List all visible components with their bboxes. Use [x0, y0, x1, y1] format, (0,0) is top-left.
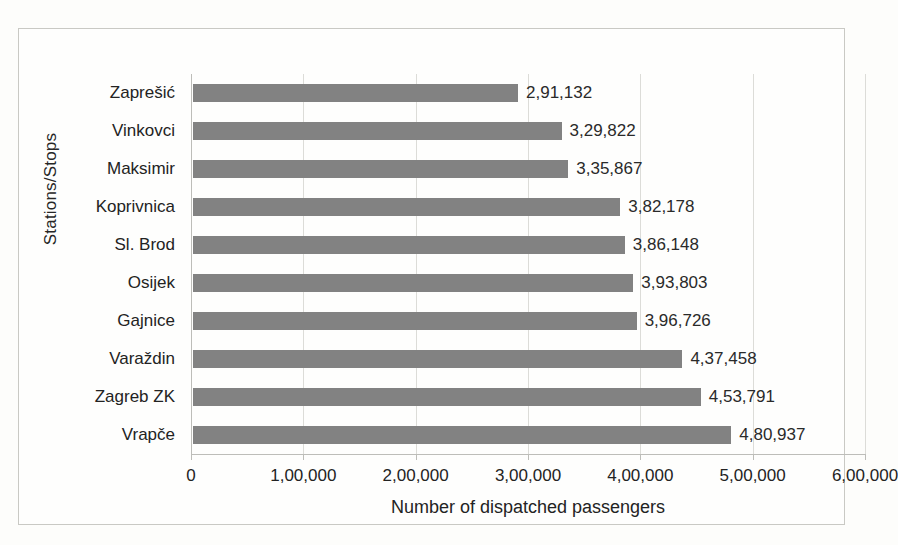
bar-value-label: 4,37,458 — [690, 349, 756, 369]
x-axis-tick — [640, 454, 641, 460]
bar[interactable] — [193, 236, 625, 254]
category-label: Sl. Brod — [57, 235, 175, 255]
x-axis-tick-label: 5,00,000 — [720, 465, 786, 487]
bar-row: 4,53,791 — [191, 378, 865, 416]
x-axis-tick — [416, 454, 417, 460]
x-axis-tick — [303, 454, 304, 460]
bar[interactable] — [193, 388, 701, 406]
x-axis-tick — [865, 454, 866, 460]
bar-value-label: 3,86,148 — [633, 235, 699, 255]
category-axis: ZaprešićVinkovciMaksimirKoprivnicaSl. Br… — [57, 74, 175, 454]
bar[interactable] — [193, 426, 731, 444]
x-axis-tick-label: 4,00,000 — [607, 465, 673, 487]
bar-value-label: 3,29,822 — [570, 121, 636, 141]
bar-value-label: 3,93,803 — [641, 273, 707, 293]
plot-area: 2,91,1323,29,8223,35,8673,82,1783,86,148… — [191, 74, 865, 454]
x-axis-tick-labels: 01,00,0002,00,0003,00,0004,00,0005,00,00… — [191, 465, 865, 489]
bar-row: 3,86,148 — [191, 226, 865, 264]
bars-layer: 2,91,1323,29,8223,35,8673,82,1783,86,148… — [191, 74, 865, 454]
x-axis-tick — [191, 454, 192, 460]
bar-row: 3,29,822 — [191, 112, 865, 150]
x-axis-tick-label: 3,00,000 — [495, 465, 561, 487]
bar-value-label: 2,91,132 — [526, 83, 592, 103]
category-label: Zagreb ZK — [57, 387, 175, 407]
category-label: Vinkovci — [57, 121, 175, 141]
category-label: Varaždin — [57, 349, 175, 369]
bar[interactable] — [193, 312, 637, 330]
bar[interactable] — [193, 84, 518, 102]
bar-value-label: 3,96,726 — [645, 311, 711, 331]
bar[interactable] — [193, 274, 633, 292]
bar[interactable] — [193, 122, 562, 140]
bar-row: 3,82,178 — [191, 188, 865, 226]
x-axis-tick-label: 2,00,000 — [383, 465, 449, 487]
x-axis-tick — [753, 454, 754, 460]
category-label: Vrapče — [57, 425, 175, 445]
x-axis-tick-label: 0 — [186, 465, 195, 487]
category-label: Maksimir — [57, 159, 175, 179]
x-axis-tick-label: 1,00,000 — [270, 465, 336, 487]
bar-row: 4,80,937 — [191, 416, 865, 454]
category-label: Zaprešić — [57, 83, 175, 103]
bar[interactable] — [193, 198, 620, 216]
category-label: Koprivnica — [57, 197, 175, 217]
bar[interactable] — [193, 350, 682, 368]
bar-row: 4,37,458 — [191, 340, 865, 378]
bar[interactable] — [193, 160, 568, 178]
x-axis-tick — [528, 454, 529, 460]
bar-value-label: 4,53,791 — [709, 387, 775, 407]
bar-value-label: 3,82,178 — [628, 197, 694, 217]
bar-row: 3,93,803 — [191, 264, 865, 302]
bar-row: 2,91,132 — [191, 74, 865, 112]
category-label: Gajnice — [57, 311, 175, 331]
bar-row: 3,35,867 — [191, 150, 865, 188]
bar-value-label: 3,35,867 — [576, 159, 642, 179]
category-label: Osijek — [57, 273, 175, 293]
gridline — [865, 74, 866, 454]
x-axis-ticks — [191, 454, 865, 460]
x-axis-title: Number of dispatched passengers — [191, 497, 865, 518]
x-axis-tick-label: 6,00,000 — [832, 465, 898, 487]
bar-value-label: 4,80,937 — [739, 425, 805, 445]
bar-row: 3,96,726 — [191, 302, 865, 340]
chart-frame: Stations/Stops ZaprešićVinkovciMaksimirK… — [18, 28, 845, 525]
